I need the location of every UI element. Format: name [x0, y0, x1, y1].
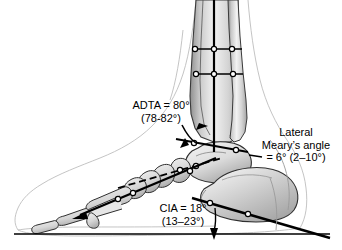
meary-label: Lateral Meary’s angle = 6° (2–10°): [251, 126, 341, 164]
adta-label: ADTA = 80° (78-82°): [118, 99, 204, 124]
cia-label-line1: CIA = 18°: [143, 202, 223, 215]
adta-leader-line: [170, 30, 183, 100]
cia-label-line2: (13–23°): [143, 215, 223, 228]
adta-label-line2: (78-82°): [118, 112, 204, 125]
meary-label-line3: = 6° (2–10°): [251, 151, 341, 164]
meary-label-line2: Meary’s angle: [251, 139, 341, 152]
meary-label-line1: Lateral: [251, 126, 341, 139]
adta-label-line1: ADTA = 80°: [118, 99, 204, 112]
anatomical-figure: ADTA = 80° (78-82°) Lateral Meary’s angl…: [0, 0, 342, 250]
cia-label: CIA = 18° (13–23°): [143, 202, 223, 227]
